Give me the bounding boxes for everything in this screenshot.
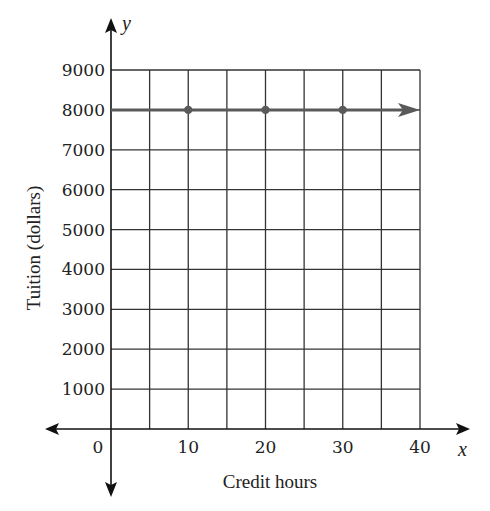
y-tick-label: 1000	[62, 379, 105, 399]
y-tick-label: 4000	[62, 259, 105, 279]
y-tick-label: 8000	[62, 100, 105, 120]
data-point	[261, 106, 269, 114]
data-point	[339, 106, 347, 114]
x-axis-title: Credit hours	[223, 471, 317, 492]
y-tick-label: 3000	[62, 299, 105, 319]
x-tick-label: 0	[93, 437, 104, 457]
y-tick-label: 5000	[62, 220, 105, 240]
axes	[45, 18, 470, 497]
y-tick-label: 9000	[62, 60, 105, 80]
data-point	[184, 106, 192, 114]
y-tick-label: 2000	[62, 339, 105, 359]
x-axis-variable: x	[457, 438, 467, 460]
grid-lines	[111, 70, 420, 429]
tuition-chart: 1000200030004000500060007000800090000102…	[0, 0, 490, 511]
y-tick-label: 6000	[62, 180, 105, 200]
y-axis-variable: y	[120, 12, 131, 35]
tick-labels: 1000200030004000500060007000800090000102…	[62, 60, 431, 457]
y-tick-label: 7000	[62, 140, 105, 160]
x-tick-label: 10	[177, 437, 199, 457]
y-axis-title: Tuition (dollars)	[23, 186, 45, 310]
x-tick-label: 40	[409, 437, 431, 457]
x-tick-label: 30	[332, 437, 354, 457]
x-tick-label: 20	[255, 437, 277, 457]
